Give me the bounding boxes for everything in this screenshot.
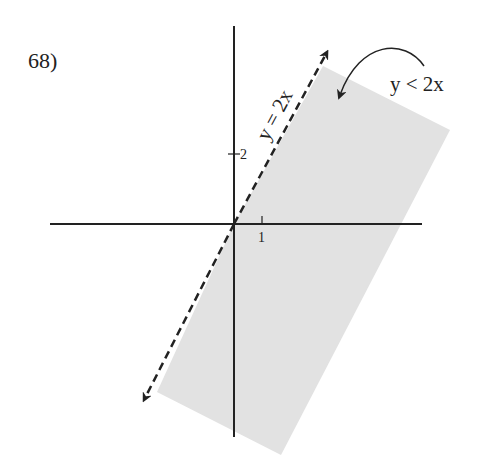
graph-canvas: 68) y < 2x y = 2x 1 2 <box>0 0 477 461</box>
shaded-region <box>157 66 450 455</box>
region-label: y < 2x <box>390 72 444 96</box>
problem-number: 68) <box>28 48 57 73</box>
x-tick-label: 1 <box>258 230 265 245</box>
y-tick-label: 2 <box>240 147 247 162</box>
inequality-graph: 68) y < 2x y = 2x 1 2 <box>0 0 477 461</box>
